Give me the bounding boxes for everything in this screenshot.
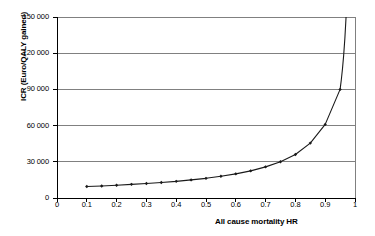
data-point — [338, 88, 341, 91]
data-point — [130, 183, 133, 186]
series-markers — [85, 88, 342, 189]
data-point — [204, 177, 207, 180]
data-point — [189, 178, 192, 181]
plot-area — [0, 0, 375, 236]
chart-container: ICR (Euro/QALY gained) 0 30 000 60 000 9… — [0, 0, 375, 236]
data-point — [160, 181, 163, 184]
data-point — [100, 184, 103, 187]
data-point — [175, 180, 178, 183]
series-line — [87, 0, 349, 187]
data-point — [234, 172, 237, 175]
data-point — [219, 175, 222, 178]
data-point — [85, 185, 88, 188]
data-point — [115, 184, 118, 187]
data-point — [249, 169, 252, 172]
data-point — [264, 165, 267, 168]
gridlines — [57, 17, 355, 162]
x-axis-ticks — [57, 198, 355, 202]
data-point — [145, 182, 148, 185]
data-point — [279, 160, 282, 163]
y-axis-ticks — [53, 17, 57, 198]
axis-lines — [57, 17, 355, 198]
